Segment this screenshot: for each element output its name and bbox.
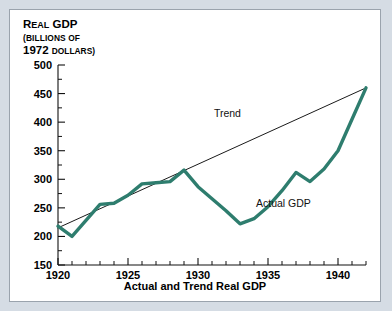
series-line-actual-gdp [58, 88, 366, 237]
chart-caption: Actual and Trend Real GDP [10, 280, 380, 292]
y-tick-label: 450 [34, 88, 52, 100]
y-tick-label: 500 [34, 59, 52, 71]
y-axis-ticks [58, 65, 65, 265]
y-tick-label: 300 [34, 173, 52, 185]
y-tick-label: 250 [34, 202, 52, 214]
series-annotations: Actual GDPTrend [214, 107, 311, 209]
series-line-trend [58, 88, 366, 228]
chart-plot-area: 150200250300350400450500 192019251930193… [10, 10, 382, 303]
series-label-actual-gdp: Actual GDP [256, 197, 311, 209]
y-axis-tick-labels: 150200250300350400450500 [34, 59, 52, 271]
data-series [58, 88, 366, 237]
x-axis-ticks [58, 258, 366, 265]
y-tick-label: 200 [34, 230, 52, 242]
series-label-trend: Trend [214, 107, 241, 119]
figure-panel: REAL GDP (BILLIONS OF 1972 DOLLARS) 1502… [9, 9, 381, 302]
chart-svg: 150200250300350400450500 192019251930193… [10, 10, 382, 303]
axes [58, 65, 366, 265]
y-tick-label: 350 [34, 145, 52, 157]
y-tick-label: 400 [34, 116, 52, 128]
